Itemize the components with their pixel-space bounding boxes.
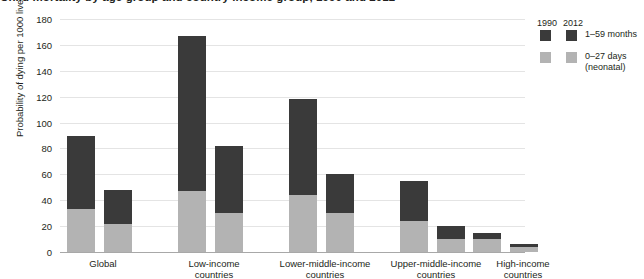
x-label-high-income: High-income countries [473, 258, 573, 279]
y-tick-140: 140 [36, 65, 52, 76]
segment-1-59-months [215, 146, 243, 213]
x-label-line1: Global [53, 258, 153, 269]
legend-label-neonatal-line2: (neonatal) [585, 62, 644, 73]
segment-1-59-months [437, 226, 465, 239]
legend-year-2012: 2012 [563, 18, 583, 28]
segment-neonatal [400, 221, 428, 252]
segment-neonatal [473, 239, 501, 252]
legend-swatch-2012-dark [566, 30, 577, 41]
y-tick-160: 160 [36, 39, 52, 50]
segment-1-59-months [326, 174, 354, 213]
x-label-line1: Upper-middle-income [386, 258, 486, 269]
legend-year-1990: 1990 [537, 18, 557, 28]
x-label-lower-middle-income: Lower-middle-income countries [275, 258, 375, 279]
segment-1-59-months [104, 190, 132, 224]
y-tick-40: 40 [41, 195, 52, 206]
segment-neonatal [326, 213, 354, 252]
y-tick-120: 120 [36, 91, 52, 102]
segment-neonatal [510, 247, 538, 252]
y-tick-80: 80 [41, 143, 52, 154]
y-tick-180: 180 [36, 14, 52, 25]
y-tick-100: 100 [36, 117, 52, 128]
segment-1-59-months [510, 244, 538, 247]
segment-1-59-months [473, 233, 501, 240]
y-tick-0: 0 [47, 247, 52, 258]
y-tick-60: 60 [41, 169, 52, 180]
plot-area [60, 19, 525, 252]
gridline-120 [60, 97, 525, 98]
legend-label-neonatal: 0–27 days (neonatal) [585, 51, 644, 72]
x-label-line1: Lower-middle-income [275, 258, 375, 269]
segment-1-59-months [178, 36, 206, 191]
legend-swatch-1990-dark [540, 30, 551, 41]
y-axis-tick-labels: 180 160 140 120 100 80 60 40 20 0 [0, 19, 56, 252]
segment-neonatal [178, 191, 206, 252]
segment-1-59-months [400, 181, 428, 221]
segment-neonatal [289, 195, 317, 252]
y-tick-20: 20 [41, 221, 52, 232]
x-label-line1: Low-income [164, 258, 264, 269]
x-label-line2: countries [386, 269, 486, 279]
segment-neonatal [215, 213, 243, 252]
x-label-low-income: Low-income countries [164, 258, 264, 279]
axis-baseline [60, 252, 525, 253]
gridline-160 [60, 45, 525, 46]
legend-row-neonatal[interactable]: 0–27 days (neonatal) [537, 52, 641, 74]
x-label-global: Global [53, 258, 153, 269]
legend-row-1-59-months[interactable]: 1–59 months [537, 30, 641, 52]
legend-swatch-1990-light [540, 52, 551, 63]
segment-1-59-months [289, 99, 317, 195]
chart-figure: Child mortality by age group and country… [0, 0, 644, 279]
x-label-line2: countries [473, 269, 573, 279]
legend-swatch-2012-light [566, 52, 577, 63]
chart-legend: 1990 2012 1–59 months 0–27 days (neonata… [537, 18, 641, 74]
figure-title: Child mortality by age group and country… [0, 0, 644, 5]
segment-1-59-months [67, 136, 95, 210]
gridline-180 [60, 19, 525, 20]
gridline-140 [60, 71, 525, 72]
segment-neonatal [67, 209, 95, 252]
x-label-line2: countries [164, 269, 264, 279]
segment-neonatal [437, 239, 465, 252]
segment-neonatal [104, 224, 132, 253]
legend-label-1-59-months: 1–59 months [585, 29, 644, 40]
legend-label-neonatal-line1: 0–27 days [585, 51, 644, 62]
x-label-line2: countries [275, 269, 375, 279]
x-label-line1: High-income [473, 258, 573, 269]
x-label-upper-middle-income: Upper-middle-income countries [386, 258, 486, 279]
